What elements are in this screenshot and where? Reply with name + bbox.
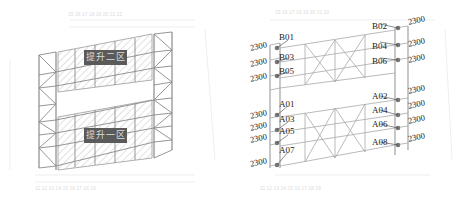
tag-a08: A08 [372, 138, 388, 147]
tag-a05: A05 [279, 127, 295, 136]
svg-text:15 16 17 18 19 20 21 22: 15 16 17 18 19 20 21 22 [275, 9, 329, 15]
scaffold-frame-drawing-left: 15 16 17 18 19 20 21 22 11 12 13 14 15 1… [0, 0, 230, 199]
tag-b03: B03 [279, 53, 294, 62]
zone-label-upper: 提升二区 [84, 50, 127, 65]
zone-label-lower: 提升一区 [84, 128, 127, 143]
tag-b05: B05 [279, 67, 294, 76]
svg-text:15 16 17 18 19 20 21 22: 15 16 17 18 19 20 21 22 [68, 11, 122, 17]
tag-b06: B06 [372, 57, 387, 66]
tag-b02: B02 [372, 22, 387, 31]
tag-a02: A02 [372, 92, 388, 101]
tag-a03: A03 [279, 115, 295, 124]
svg-text:11 12 13 14 15 16 17 18 19: 11 12 13 14 15 16 17 18 19 [35, 185, 96, 191]
svg-text:11 12 13 14 15 16 17 18 19: 11 12 13 14 15 16 17 18 19 [260, 185, 321, 191]
tag-a04: A04 [372, 106, 388, 115]
scaffold-frame-drawing-right: 15 16 17 18 19 20 21 22 11 12 13 14 15 1… [230, 0, 460, 199]
left-drawing-panel: 15 16 17 18 19 20 21 22 11 12 13 14 15 1… [0, 0, 230, 199]
tag-b04: B04 [372, 42, 387, 51]
tag-a06: A06 [372, 120, 388, 129]
tag-a01: A01 [279, 100, 295, 109]
tag-a07: A07 [279, 146, 295, 155]
tag-b01: B01 [279, 33, 294, 42]
right-drawing-panel: 15 16 17 18 19 20 21 22 11 12 13 14 15 1… [230, 0, 460, 199]
